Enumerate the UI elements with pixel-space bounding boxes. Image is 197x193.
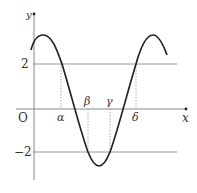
beta-label: β (84, 96, 90, 107)
y-axis-label: y (26, 10, 32, 20)
x-axis-arrow-icon (185, 108, 188, 111)
sine-curve (31, 35, 167, 166)
y-axis-arrow-icon (33, 13, 36, 16)
alpha-label: α (57, 112, 64, 123)
y-tick-2: 2 (21, 58, 29, 70)
graph-canvas (0, 0, 197, 193)
origin-label: O (18, 112, 28, 124)
gamma-label: γ (106, 96, 113, 107)
x-axis-label: x (182, 112, 189, 124)
y-tick-minus-2: −2 (14, 146, 32, 158)
delta-label: δ (132, 112, 139, 123)
